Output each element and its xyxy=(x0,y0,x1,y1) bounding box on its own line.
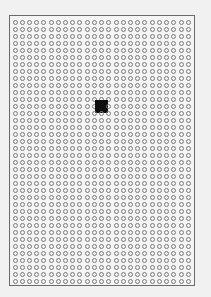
grid-cell[interactable] xyxy=(41,258,46,263)
grid-cell[interactable] xyxy=(164,97,169,102)
grid-cell[interactable] xyxy=(63,209,68,214)
grid-cell[interactable] xyxy=(114,174,119,179)
grid-cell[interactable] xyxy=(171,97,176,102)
grid-cell[interactable] xyxy=(128,195,133,200)
grid-cell[interactable] xyxy=(34,181,39,186)
grid-cell[interactable] xyxy=(41,20,46,25)
grid-cell[interactable] xyxy=(56,20,61,25)
grid-cell[interactable] xyxy=(135,97,140,102)
grid-cell[interactable] xyxy=(121,62,126,67)
grid-cell[interactable] xyxy=(142,195,147,200)
grid-cell[interactable] xyxy=(41,76,46,81)
grid-cell[interactable] xyxy=(63,90,68,95)
grid-cell[interactable] xyxy=(179,244,184,249)
grid-cell[interactable] xyxy=(20,258,25,263)
grid-cell[interactable] xyxy=(63,97,68,102)
grid-cell[interactable] xyxy=(85,146,90,151)
grid-cell[interactable] xyxy=(77,76,82,81)
grid-cell[interactable] xyxy=(63,27,68,32)
grid-cell[interactable] xyxy=(157,48,162,53)
grid-cell[interactable] xyxy=(85,48,90,53)
grid-cell[interactable] xyxy=(63,181,68,186)
grid-cell[interactable] xyxy=(128,76,133,81)
grid-cell[interactable] xyxy=(92,139,97,144)
grid-cell[interactable] xyxy=(85,202,90,207)
grid-cell[interactable] xyxy=(27,104,32,109)
grid-cell[interactable] xyxy=(77,251,82,256)
grid-cell[interactable] xyxy=(135,118,140,123)
grid-cell[interactable] xyxy=(99,41,104,46)
grid-cell[interactable] xyxy=(164,90,169,95)
grid-cell[interactable] xyxy=(99,181,104,186)
grid-cell[interactable] xyxy=(77,202,82,207)
grid-cell[interactable] xyxy=(49,244,54,249)
grid-cell[interactable] xyxy=(99,251,104,256)
grid-cell[interactable] xyxy=(135,55,140,60)
grid-cell[interactable] xyxy=(135,209,140,214)
grid-cell[interactable] xyxy=(106,125,111,130)
grid-cell[interactable] xyxy=(13,209,18,214)
grid-cell[interactable] xyxy=(56,272,61,277)
grid-cell[interactable] xyxy=(27,41,32,46)
grid-cell[interactable] xyxy=(77,181,82,186)
grid-cell[interactable] xyxy=(157,111,162,116)
grid-cell[interactable] xyxy=(157,76,162,81)
grid-cell[interactable] xyxy=(171,244,176,249)
grid-cell[interactable] xyxy=(121,209,126,214)
grid-cell[interactable] xyxy=(27,195,32,200)
grid-cell[interactable] xyxy=(56,244,61,249)
grid-cell[interactable] xyxy=(85,90,90,95)
grid-cell[interactable] xyxy=(85,216,90,221)
grid-cell[interactable] xyxy=(56,230,61,235)
grid-cell[interactable] xyxy=(171,188,176,193)
grid-cell[interactable] xyxy=(13,48,18,53)
grid-cell[interactable] xyxy=(150,62,155,67)
grid-cell[interactable] xyxy=(186,167,191,172)
grid-cell[interactable] xyxy=(128,258,133,263)
grid-cell[interactable] xyxy=(186,202,191,207)
grid-cell[interactable] xyxy=(20,27,25,32)
grid-cell[interactable] xyxy=(150,258,155,263)
grid-cell[interactable] xyxy=(34,209,39,214)
grid-cell[interactable] xyxy=(99,258,104,263)
grid-cell[interactable] xyxy=(20,90,25,95)
grid-cell[interactable] xyxy=(135,132,140,137)
grid-cell[interactable] xyxy=(85,265,90,270)
grid-cell[interactable] xyxy=(179,265,184,270)
grid-cell[interactable] xyxy=(106,258,111,263)
grid-cell[interactable] xyxy=(49,237,54,242)
grid-cell[interactable] xyxy=(157,209,162,214)
grid-cell[interactable] xyxy=(85,153,90,158)
grid-cell[interactable] xyxy=(70,244,75,249)
grid-cell[interactable] xyxy=(13,34,18,39)
grid-cell[interactable] xyxy=(142,167,147,172)
grid-cell[interactable] xyxy=(85,41,90,46)
grid-cell[interactable] xyxy=(179,202,184,207)
grid-cell[interactable] xyxy=(63,279,68,284)
grid-cell[interactable] xyxy=(99,244,104,249)
grid-cell[interactable] xyxy=(34,188,39,193)
grid-cell[interactable] xyxy=(20,188,25,193)
grid-cell[interactable] xyxy=(128,104,133,109)
grid-cell[interactable] xyxy=(171,139,176,144)
grid-cell[interactable] xyxy=(13,153,18,158)
grid-cell[interactable] xyxy=(114,279,119,284)
grid-cell[interactable] xyxy=(106,195,111,200)
grid-cell[interactable] xyxy=(34,258,39,263)
grid-cell[interactable] xyxy=(70,146,75,151)
grid-cell[interactable] xyxy=(106,34,111,39)
grid-cell[interactable] xyxy=(20,111,25,116)
grid-cell[interactable] xyxy=(20,48,25,53)
grid-cell[interactable] xyxy=(49,146,54,151)
grid-cell[interactable] xyxy=(114,272,119,277)
grid-cell[interactable] xyxy=(135,104,140,109)
grid-cell[interactable] xyxy=(49,202,54,207)
grid-cell[interactable] xyxy=(49,104,54,109)
grid-cell[interactable] xyxy=(92,132,97,137)
grid-cell[interactable] xyxy=(150,223,155,228)
grid-cell[interactable] xyxy=(70,97,75,102)
grid-cell[interactable] xyxy=(70,174,75,179)
grid-cell[interactable] xyxy=(92,62,97,67)
grid-cell[interactable] xyxy=(179,90,184,95)
grid-cell[interactable] xyxy=(106,223,111,228)
